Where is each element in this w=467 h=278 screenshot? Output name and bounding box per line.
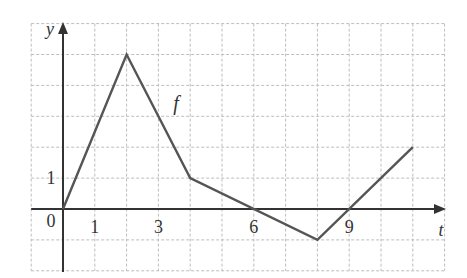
y-axis-label: y [44, 19, 54, 39]
x-tick-label: 1 [90, 217, 99, 237]
x-tick-label: 9 [345, 217, 354, 237]
curve-label-f: f [173, 92, 181, 115]
origin-label: 0 [47, 211, 56, 231]
x-axis-label: t [438, 220, 444, 240]
line-chart: 136910tyf [0, 0, 467, 278]
y-tick-label: 1 [47, 168, 56, 188]
x-tick-label: 3 [154, 217, 163, 237]
x-tick-label: 6 [249, 217, 258, 237]
labels: 136910tyf [44, 19, 444, 240]
